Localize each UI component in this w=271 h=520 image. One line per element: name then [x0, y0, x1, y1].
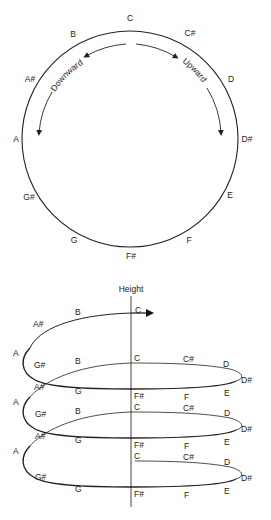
- helix-label: E: [224, 388, 230, 398]
- helix-label: C: [134, 353, 140, 363]
- downward-arrow-top: [86, 44, 126, 56]
- helix-label: A: [13, 348, 19, 358]
- note-label-f-sharp: F#: [126, 251, 136, 261]
- helix-front-segment-1: [23, 446, 236, 487]
- helix-label: F#: [134, 489, 144, 499]
- helix-label: C: [135, 305, 141, 315]
- note-label-c: C: [127, 13, 133, 23]
- helix-label: E: [224, 437, 230, 447]
- helix-label: F: [184, 490, 189, 500]
- helix-label: F#: [134, 440, 144, 450]
- note-label-c-sharp: C#: [185, 28, 196, 38]
- helix-label: G: [75, 484, 82, 494]
- helix-label: C#: [183, 354, 194, 364]
- helix-label: F: [184, 441, 189, 451]
- helix-label: D#: [241, 375, 252, 385]
- note-label-a-sharp: A#: [25, 74, 36, 84]
- helix-label: D#: [241, 424, 252, 434]
- helix-label: A#: [34, 382, 45, 392]
- downward-arrow-bottom: [39, 92, 52, 133]
- helix-rise-3: [30, 313, 131, 348]
- helix-label: D: [223, 359, 229, 369]
- helix-label: D: [224, 408, 230, 418]
- helix-label: A#: [33, 319, 44, 329]
- helix-label: A: [13, 446, 19, 456]
- helix-label: E: [224, 486, 230, 496]
- note-label-a: A: [13, 134, 19, 144]
- pitch-helix: Height C B A# A G# B C C# D D# A# G F: [13, 284, 252, 507]
- helix-label: F#: [134, 391, 144, 401]
- helix-label: C: [134, 402, 140, 412]
- note-label-f: F: [186, 235, 191, 245]
- pitch-circle: Downward Upward C C# D D# E F F# G G# A …: [13, 13, 253, 261]
- note-label-d: D: [228, 74, 234, 84]
- helix-label: G: [75, 386, 82, 396]
- note-label-g-sharp: G#: [23, 192, 35, 202]
- helix-label: G#: [35, 472, 47, 482]
- helix-label: F: [184, 392, 189, 402]
- helix-label: C: [134, 451, 140, 461]
- height-axis-label: Height: [119, 284, 144, 294]
- helix-label: A: [13, 397, 19, 407]
- helix-label: B: [75, 356, 81, 366]
- helix-label: G#: [34, 360, 46, 370]
- note-label-e: E: [227, 190, 233, 200]
- helix-label: D#: [241, 473, 252, 483]
- diagram-canvas: Downward Upward C C# D D# E F F# G G# A …: [0, 0, 271, 520]
- helix-label: D: [224, 457, 230, 467]
- upward-arrow-bottom: [207, 88, 221, 133]
- helix-label: B: [75, 406, 81, 416]
- helix-label: B: [75, 307, 81, 317]
- helix-label: G: [75, 435, 82, 445]
- helix-label: C#: [183, 452, 194, 462]
- upward-label: Upward: [181, 56, 209, 85]
- helix-label: G#: [35, 409, 47, 419]
- chroma-circle: [22, 31, 238, 247]
- helix-label: C#: [183, 403, 194, 413]
- circle-note-labels: C C# D D# E F F# G G# A A# B: [13, 13, 253, 261]
- helix-label: A#: [35, 431, 46, 441]
- helix-front-segment-3: [23, 348, 236, 389]
- note-label-d-sharp: D#: [242, 134, 253, 144]
- helix-note-labels: C B A# A G# B C C# D D# A# G F# F E A C …: [13, 305, 252, 500]
- helix-front-segment-2: [23, 397, 236, 438]
- note-label-b: B: [70, 29, 76, 39]
- note-label-g: G: [71, 235, 78, 245]
- upward-arrow-top: [136, 44, 176, 57]
